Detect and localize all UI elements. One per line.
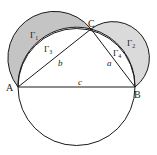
lunes-diagram: A B C b a c Γ1 Γ3 Γ2 Γ4: [0, 0, 157, 155]
side-b-label: b: [58, 58, 63, 68]
gamma4-label: Γ4: [113, 48, 121, 59]
point-C-label: C: [88, 18, 95, 29]
point-B-label: B: [134, 89, 141, 100]
gamma3-label: Γ3: [44, 44, 52, 55]
side-a-label: a: [107, 58, 112, 68]
point-A-label: A: [6, 82, 14, 93]
side-c-label: c: [78, 77, 82, 87]
